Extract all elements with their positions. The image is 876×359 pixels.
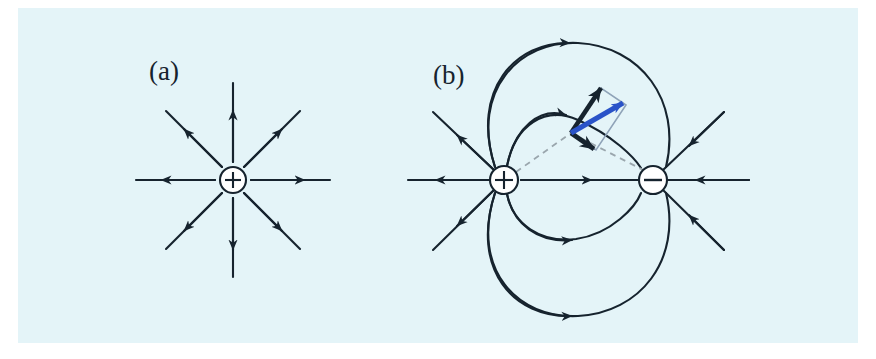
field-line-a-225-arrow — [184, 193, 222, 231]
field-line-a-135-arrow — [184, 129, 222, 167]
dipole-loop-inner-upper — [507, 115, 641, 168]
panel-b-positive-charge — [490, 166, 518, 194]
field-line-a-45-arrow — [244, 129, 282, 167]
dipole-loop-inner-lower — [507, 193, 641, 240]
panel-b-negative-charge — [639, 166, 667, 194]
field-lines-diagram: (a) — [0, 0, 876, 359]
panel-b-group: (b) — [408, 43, 749, 316]
dashed-line-from-positive — [516, 133, 571, 172]
panel-a-positive-charge — [220, 167, 246, 193]
dipole-external-line-upper-right-arrow — [689, 112, 724, 146]
field-line-a-315-arrow — [244, 193, 282, 231]
figure-root: (a) — [0, 0, 876, 359]
dipole-loop-outer-upper-arrow — [488, 43, 570, 167]
dipole-loop-outer-lower-arrow — [488, 193, 572, 316]
panel-a-group: (a) — [136, 56, 330, 277]
field-component-toward-negative-charge — [571, 133, 594, 149]
panel-a-label: (a) — [149, 56, 179, 86]
dipole-external-line-lower-right-arrow — [689, 215, 724, 250]
panel-b-label: (b) — [433, 60, 464, 90]
